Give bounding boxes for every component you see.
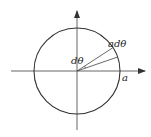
angle-arc	[85, 66, 86, 68]
polar-diagram: adθ dθ a	[0, 0, 151, 137]
angle-label: dθ	[71, 55, 83, 66]
arc-length-label: adθ	[108, 38, 126, 49]
radius-label: a	[122, 72, 128, 83]
